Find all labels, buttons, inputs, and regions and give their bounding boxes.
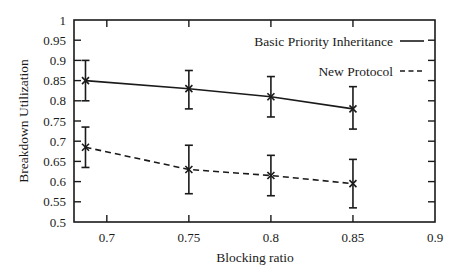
y-tick-label: 0.6 [50,174,67,189]
y-tick-label: 1 [60,13,67,28]
x-tick-label: 0.85 [342,230,365,245]
series-line [85,147,352,183]
series-layer [81,60,356,207]
x-tick-label: 0.9 [427,230,443,245]
x-axis-ticks: 0.70.750.80.850.9 [99,20,443,245]
y-tick-label: 0.9 [50,53,66,68]
y-axis-title: Breakdown Utilization [16,59,31,183]
x-tick-label: 0.75 [177,230,200,245]
y-tick-label: 0.5 [50,215,66,230]
x-axis-title: Blocking ratio [216,250,294,265]
plot-frame [74,20,435,222]
legend: Basic Priority InheritanceNew Protocol [254,34,424,79]
y-tick-label: 0.95 [43,33,66,48]
y-tick-label: 0.85 [43,73,66,88]
series-line [85,81,352,109]
series-new-protocol [81,127,356,208]
y-tick-label: 0.8 [50,93,66,108]
y-tick-label: 0.55 [43,194,66,209]
y-tick-label: 0.75 [43,114,66,129]
x-tick-label: 0.7 [99,230,116,245]
chart: 0.50.550.60.650.70.750.80.850.90.951 0.7… [0,0,458,272]
y-tick-label: 0.7 [50,134,67,149]
y-tick-label: 0.65 [43,154,66,169]
legend-label: New Protocol [318,64,393,79]
x-tick-label: 0.8 [263,230,279,245]
series-basic-priority-inheritance [81,60,356,129]
legend-label: Basic Priority Inheritance [254,34,393,49]
